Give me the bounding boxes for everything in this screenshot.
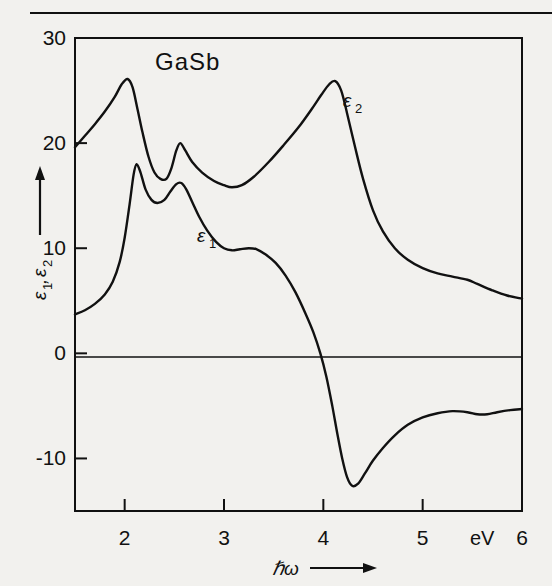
x-axis-arrow-head [363, 563, 377, 573]
y-axis-ticks [75, 38, 87, 458]
header-rule [30, 12, 552, 14]
x-tick-label: 2 [119, 526, 131, 549]
x-axis-label-group: ℏω [272, 558, 377, 579]
plot-frame [75, 38, 522, 511]
curve-epsilon2 [75, 79, 522, 299]
x-axis-ticks [125, 499, 423, 511]
figure-container: 3020100-10 23456 GaSb ε 2 ε 1 ε 1 , ε [0, 0, 552, 586]
curve-epsilon1 [75, 164, 522, 486]
y-tick-label: 30 [43, 26, 66, 49]
x-tick-label: 4 [317, 526, 329, 549]
y-tick-label: 10 [43, 236, 66, 259]
svg-text:ε: ε [197, 225, 206, 246]
y-tick-label: 20 [43, 131, 66, 154]
svg-text:2: 2 [40, 260, 55, 267]
x-tick-label: 3 [218, 526, 230, 549]
svg-text:1: 1 [209, 236, 216, 251]
y-axis-tick-labels: 3020100-10 [36, 26, 66, 469]
x-axis-label: ℏω [272, 558, 299, 579]
svg-text:ε: ε [343, 90, 352, 111]
chart-title: GaSb [155, 48, 220, 75]
y-axis-label: ε 1 , ε 2 [29, 260, 55, 300]
svg-text:2: 2 [355, 101, 362, 116]
x-axis-unit-label: eV [470, 527, 495, 549]
x-tick-label: 6 [516, 526, 528, 549]
svg-text:ε: ε [29, 268, 50, 277]
x-tick-label: 5 [417, 526, 429, 549]
svg-text:,: , [29, 279, 50, 284]
y-tick-label: 0 [54, 341, 66, 364]
x-axis-tick-labels: 23456 [119, 526, 528, 549]
y-axis-label-group: ε 1 , ε 2 [29, 166, 55, 300]
svg-text:ε: ε [29, 291, 50, 300]
epsilon-spectrum-chart: 3020100-10 23456 GaSb ε 2 ε 1 ε 1 , ε [0, 0, 552, 586]
y-tick-label: -10 [36, 446, 66, 469]
y-axis-arrow-head [35, 166, 45, 180]
